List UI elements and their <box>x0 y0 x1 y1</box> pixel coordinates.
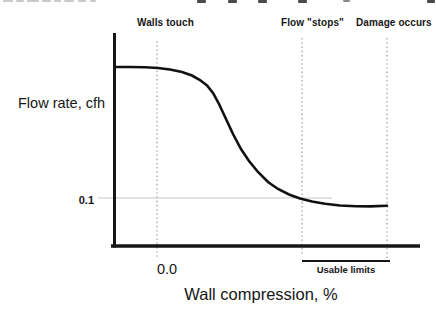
x-axis-title: Wall compression, % <box>150 285 372 304</box>
walls-touch-label: Walls touch <box>137 17 194 28</box>
damage-occurs-label: Damage occurs <box>356 17 432 28</box>
y-tick-0-1: 0.1 <box>74 194 94 206</box>
flow-stops-label: Flow "stops" <box>281 17 344 28</box>
y-axis-title: Flow rate, cfh <box>18 95 105 111</box>
flow-rate-vs-compression-chart: Walls touch Flow "stops" Damage occurs F… <box>0 0 436 319</box>
x-tick-0-0: 0.0 <box>157 261 177 277</box>
usable-limits-label: Usable limits <box>300 264 392 275</box>
